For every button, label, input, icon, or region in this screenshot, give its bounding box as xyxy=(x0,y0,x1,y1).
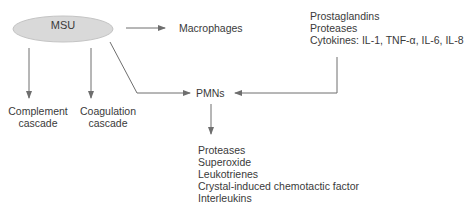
macrophage-product-item: Cytokines: IL-1, TNF-α, IL-6, IL-8 xyxy=(310,34,464,46)
complement-cascade-node: Complement cascade xyxy=(2,105,74,129)
arrow-cytokines-to-pmns xyxy=(235,57,337,93)
coagulation-cascade-node: Coagulation cascade xyxy=(78,105,138,129)
msu-node-label: MSU xyxy=(14,19,112,31)
macrophage-product-item: Prostaglandins xyxy=(310,10,464,22)
coagulation-label-line: cascade xyxy=(78,117,138,129)
pmn-product-item: Superoxide xyxy=(198,156,359,168)
macrophage-products-list: Prostaglandins Proteases Cytokines: IL-1… xyxy=(310,10,464,46)
pmn-product-item: Crystal-induced chemotactic factor xyxy=(198,180,359,192)
macrophage-product-item: Proteases xyxy=(310,22,464,34)
pmn-product-item: Proteases xyxy=(198,144,359,156)
pmn-product-item: Interleukins xyxy=(198,192,359,204)
pmns-node: PMNs xyxy=(196,87,225,99)
pmn-product-item: Leukotrienes xyxy=(198,168,359,180)
complement-label-line: cascade xyxy=(2,117,74,129)
arrow-msu-to-pmns xyxy=(110,42,190,93)
pmn-products-list: Proteases Superoxide Leukotrienes Crysta… xyxy=(198,144,359,204)
macrophages-node: Macrophages xyxy=(179,22,243,34)
coagulation-label-line: Coagulation xyxy=(78,105,138,117)
complement-label-line: Complement xyxy=(2,105,74,117)
